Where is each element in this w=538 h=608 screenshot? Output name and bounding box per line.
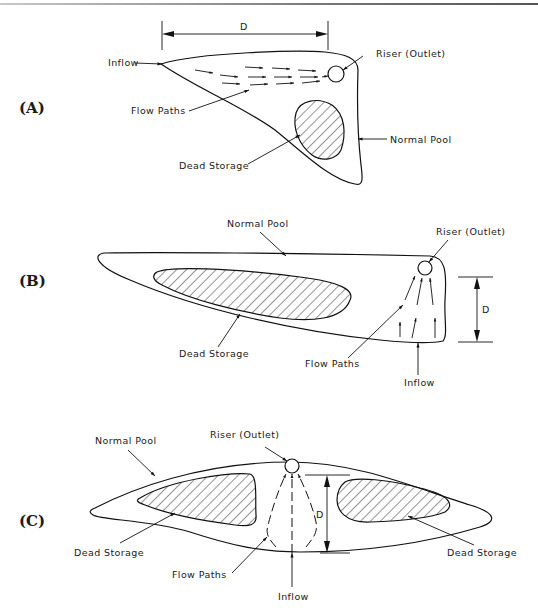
panel-c-normal-pool-label: Normal Pool xyxy=(95,435,156,446)
panel-b-flow-paths-label: Flow Paths xyxy=(305,358,360,369)
panel-a-riser-icon xyxy=(328,66,344,82)
pond-flow-diagram: (A) D xyxy=(0,0,538,608)
panel-c-dead-storage-right-label: Dead Storage xyxy=(447,547,517,558)
panel-a-flow-paths xyxy=(195,67,328,85)
panel-a-riser-label: Riser (Outlet) xyxy=(376,48,445,59)
panel-c-flow-paths-label: Flow Paths xyxy=(172,569,227,580)
panel-a-inflow-label: Inflow xyxy=(108,57,139,68)
panel-b-label: (B) xyxy=(19,272,46,290)
panel-a-dead-storage-label: Dead Storage xyxy=(179,160,249,171)
panel-b-dimension-d: D xyxy=(458,277,493,342)
panel-a-dimension-d: D xyxy=(162,21,328,50)
panel-b-dead-storage-area xyxy=(154,269,351,320)
panel-a-flow-paths-label: Flow Paths xyxy=(131,105,186,116)
panel-c-riser-icon xyxy=(285,459,299,473)
panel-c-flow-paths xyxy=(267,474,316,553)
panel-c-riser-label: Riser (Outlet) xyxy=(210,429,279,440)
panel-a-label: (A) xyxy=(19,99,45,117)
panel-c-inflow-label: Inflow xyxy=(278,591,309,602)
panel-c-dead-storage-right-area xyxy=(337,479,450,522)
panel-b-flow-paths xyxy=(400,276,435,338)
panel-c-label: (C) xyxy=(19,512,45,530)
panel-b-inflow-label: Inflow xyxy=(404,377,435,388)
panel-b-normal-pool-label: Normal Pool xyxy=(227,218,288,229)
panel-a-normal-pool-label: Normal Pool xyxy=(390,134,451,145)
panel-a: (A) D xyxy=(19,21,451,184)
panel-b-dimension-label: D xyxy=(482,304,490,315)
panel-a-dead-storage-area xyxy=(295,101,344,160)
panel-c-dead-storage-left-label: Dead Storage xyxy=(74,547,144,558)
panel-c-dead-storage-left-area xyxy=(137,474,256,526)
panel-b-riser-label: Riser (Outlet) xyxy=(436,226,505,237)
panel-a-dimension-label: D xyxy=(240,21,248,32)
panel-b-dead-storage-label: Dead Storage xyxy=(179,348,249,359)
panel-b-riser-icon xyxy=(418,261,432,275)
panel-c: (C) D Normal Pool Riser (Outlet) xyxy=(19,429,517,602)
panel-c-dimension-label: D xyxy=(316,509,324,520)
panel-b: (B) D Normal Pool Riser (Ou xyxy=(19,218,505,388)
